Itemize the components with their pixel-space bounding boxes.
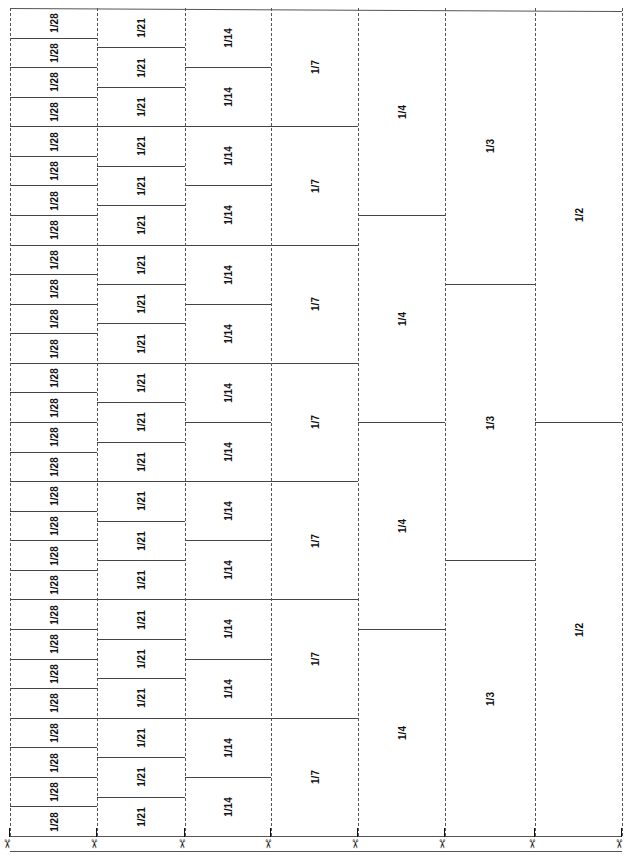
fraction-label: 1/28 xyxy=(48,43,59,62)
fraction-piece: 1/28 xyxy=(10,38,97,68)
fraction-piece: 1/21 xyxy=(97,126,185,165)
fraction-piece: 1/21 xyxy=(97,442,185,481)
fraction-label: 1/28 xyxy=(48,575,59,594)
fraction-piece: 1/28 xyxy=(10,126,97,156)
fraction-label: 1/21 xyxy=(136,176,147,195)
fraction-label: 1/4 xyxy=(396,312,407,326)
fraction-piece: 1/21 xyxy=(97,521,185,560)
fraction-label: 1/28 xyxy=(48,250,59,269)
fraction-label: 1/21 xyxy=(136,689,147,708)
fraction-piece: 1/21 xyxy=(97,481,185,520)
fraction-label: 1/28 xyxy=(48,605,59,624)
fraction-label: 1/21 xyxy=(136,18,147,37)
fraction-piece: 1/14 xyxy=(185,67,271,126)
fraction-label: 1/21 xyxy=(136,807,147,826)
fraction-piece: 1/21 xyxy=(97,47,185,86)
fraction-piece: 1/21 xyxy=(97,599,185,638)
fraction-piece: 1/7 xyxy=(271,8,358,126)
fraction-piece: 1/21 xyxy=(97,678,185,717)
fraction-label: 1/7 xyxy=(309,770,320,784)
fraction-piece: 1/28 xyxy=(10,274,97,304)
fraction-piece: 1/14 xyxy=(185,185,271,244)
fraction-label: 1/21 xyxy=(136,768,147,787)
dashed-cut-line xyxy=(97,8,98,836)
fraction-label: 1/7 xyxy=(309,297,320,311)
fraction-label: 1/21 xyxy=(136,492,147,511)
fraction-piece: 1/28 xyxy=(10,333,97,363)
fraction-label: 1/21 xyxy=(136,649,147,668)
fraction-piece: 1/14 xyxy=(185,481,271,540)
fraction-piece: 1/28 xyxy=(10,747,97,777)
fraction-label: 1/28 xyxy=(48,191,59,210)
fraction-piece: 1/21 xyxy=(97,718,185,757)
column-c2: 1/21/2 xyxy=(535,8,622,836)
fraction-label: 1/28 xyxy=(48,13,59,32)
fraction-piece: 1/28 xyxy=(10,688,97,718)
fraction-piece: 1/21 xyxy=(97,166,185,205)
fraction-label: 1/28 xyxy=(48,487,59,506)
fraction-label: 1/28 xyxy=(48,102,59,121)
fraction-piece: 1/14 xyxy=(185,363,271,422)
scissors-icon: ✂ xyxy=(4,828,16,850)
fraction-label: 1/7 xyxy=(309,416,320,430)
fraction-label: 1/14 xyxy=(223,442,234,461)
dashed-cut-line xyxy=(358,8,359,836)
fraction-piece: 1/7 xyxy=(271,481,358,599)
fraction-piece: 1/28 xyxy=(10,245,97,275)
dashed-cut-line xyxy=(535,8,536,836)
fraction-label: 1/2 xyxy=(573,623,584,637)
fraction-piece: 1/14 xyxy=(185,777,271,836)
fraction-label: 1/2 xyxy=(573,208,584,222)
fraction-label: 1/21 xyxy=(136,728,147,747)
column-c3: 1/31/31/3 xyxy=(445,8,535,836)
fraction-piece: 1/28 xyxy=(10,156,97,186)
fraction-piece: 1/28 xyxy=(10,452,97,482)
fraction-piece: 1/21 xyxy=(97,402,185,441)
fraction-piece: 1/28 xyxy=(10,97,97,127)
fraction-label: 1/28 xyxy=(48,664,59,683)
fraction-piece: 1/7 xyxy=(271,363,358,481)
fraction-label: 1/14 xyxy=(223,738,234,757)
fraction-label: 1/21 xyxy=(136,255,147,274)
fraction-piece: 1/28 xyxy=(10,659,97,689)
dashed-cut-line xyxy=(10,8,11,836)
fraction-piece: 1/28 xyxy=(10,8,97,38)
column-c14: 1/141/141/141/141/141/141/141/141/141/14… xyxy=(185,8,271,836)
fraction-label: 1/21 xyxy=(136,452,147,471)
fraction-piece: 1/28 xyxy=(10,718,97,748)
fraction-piece: 1/7 xyxy=(271,126,358,244)
scissors-icon: ✂ xyxy=(439,828,451,850)
fraction-piece: 1/14 xyxy=(185,8,271,67)
fraction-label: 1/14 xyxy=(223,206,234,225)
fraction-label: 1/21 xyxy=(136,570,147,589)
fraction-strip-sheet: 1/281/281/281/281/281/281/281/281/281/28… xyxy=(0,0,627,856)
fraction-label: 1/14 xyxy=(223,324,234,343)
fraction-label: 1/7 xyxy=(309,534,320,548)
fraction-piece: 1/28 xyxy=(10,392,97,422)
scissors-icon: ✂ xyxy=(91,828,103,850)
fraction-piece: 1/28 xyxy=(10,215,97,245)
fraction-piece: 1/14 xyxy=(185,659,271,718)
fraction-label: 1/14 xyxy=(223,620,234,639)
dashed-cut-line xyxy=(622,8,623,836)
fraction-piece: 1/28 xyxy=(10,363,97,393)
fraction-piece: 1/21 xyxy=(97,284,185,323)
dashed-cut-line xyxy=(271,8,272,836)
fraction-piece: 1/28 xyxy=(10,540,97,570)
fraction-label: 1/4 xyxy=(396,105,407,119)
fraction-label: 1/14 xyxy=(223,797,234,816)
fraction-label: 1/28 xyxy=(48,398,59,417)
fraction-label: 1/14 xyxy=(223,679,234,698)
fraction-piece: 1/21 xyxy=(97,8,185,47)
fraction-piece: 1/21 xyxy=(97,87,185,126)
fraction-label: 1/14 xyxy=(223,147,234,166)
fraction-piece: 1/14 xyxy=(185,422,271,481)
fraction-label: 1/14 xyxy=(223,561,234,580)
fraction-label: 1/21 xyxy=(136,97,147,116)
fraction-label: 1/28 xyxy=(48,309,59,328)
fraction-label: 1/28 xyxy=(48,753,59,772)
fraction-label: 1/21 xyxy=(136,334,147,353)
fraction-label: 1/14 xyxy=(223,265,234,284)
fraction-piece: 1/28 xyxy=(10,185,97,215)
fraction-label: 1/28 xyxy=(48,694,59,713)
